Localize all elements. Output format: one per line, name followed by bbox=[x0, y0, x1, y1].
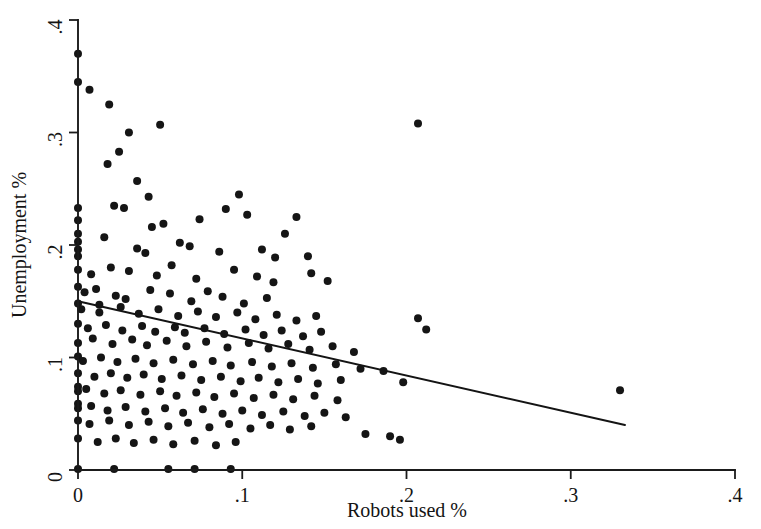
data-point bbox=[150, 359, 158, 367]
data-point bbox=[268, 363, 276, 371]
data-point bbox=[138, 322, 146, 330]
data-point bbox=[81, 288, 89, 296]
data-point bbox=[115, 148, 123, 156]
data-point bbox=[86, 420, 94, 428]
data-point bbox=[299, 332, 307, 340]
data-point bbox=[123, 374, 131, 382]
x-axis-title: Robots used % bbox=[347, 499, 467, 521]
data-point bbox=[86, 86, 94, 94]
data-point bbox=[117, 386, 125, 394]
data-point bbox=[112, 292, 120, 300]
data-point bbox=[227, 465, 235, 473]
data-point bbox=[141, 249, 149, 257]
data-point bbox=[237, 377, 245, 385]
data-point bbox=[227, 361, 235, 369]
data-point bbox=[173, 392, 181, 400]
data-point bbox=[84, 324, 92, 332]
data-point bbox=[266, 421, 274, 429]
data-point bbox=[168, 261, 176, 269]
data-point bbox=[233, 309, 241, 317]
tick-labels-layer: 0.1.2.3.40.1.2.3.4 bbox=[44, 20, 743, 507]
data-point bbox=[145, 193, 153, 201]
data-point bbox=[414, 120, 422, 128]
data-point bbox=[182, 342, 190, 350]
data-point bbox=[288, 359, 296, 367]
data-point bbox=[210, 393, 218, 401]
y-tick-label: .1 bbox=[44, 357, 66, 372]
data-point bbox=[102, 321, 110, 329]
data-point bbox=[133, 177, 141, 185]
data-point bbox=[199, 405, 207, 413]
data-point bbox=[191, 465, 199, 473]
data-point bbox=[258, 246, 266, 254]
data-point bbox=[82, 385, 90, 393]
data-point bbox=[230, 390, 238, 398]
data-point bbox=[238, 406, 246, 414]
data-point bbox=[125, 421, 133, 429]
data-point bbox=[118, 327, 126, 335]
chart-canvas: 0.1.2.3.40.1.2.3.4 Robots used % Unemplo… bbox=[0, 0, 761, 529]
data-point bbox=[156, 121, 164, 129]
data-point bbox=[616, 386, 624, 394]
data-point bbox=[161, 404, 169, 412]
data-point bbox=[145, 418, 153, 426]
data-point bbox=[100, 390, 108, 398]
data-point bbox=[130, 439, 138, 447]
data-point bbox=[163, 337, 171, 345]
data-point bbox=[164, 465, 172, 473]
data-point bbox=[146, 286, 154, 294]
data-point bbox=[361, 430, 369, 438]
x-tick-label: .1 bbox=[235, 484, 250, 506]
data-point bbox=[219, 410, 227, 418]
data-point bbox=[112, 435, 120, 443]
data-point bbox=[136, 391, 144, 399]
data-point bbox=[104, 160, 112, 168]
data-point bbox=[242, 325, 250, 333]
data-point bbox=[205, 423, 213, 431]
data-point bbox=[169, 356, 177, 364]
data-point bbox=[174, 312, 182, 320]
data-point bbox=[95, 309, 103, 317]
data-point bbox=[230, 266, 238, 274]
data-point bbox=[125, 267, 133, 275]
data-point bbox=[197, 376, 205, 384]
tick-marks-layer bbox=[69, 20, 735, 479]
data-point bbox=[289, 395, 297, 403]
data-point bbox=[235, 190, 243, 198]
data-point bbox=[232, 438, 240, 446]
x-tick-label: 0 bbox=[73, 484, 83, 506]
data-point bbox=[97, 354, 105, 362]
data-point bbox=[90, 373, 98, 381]
data-point bbox=[246, 424, 254, 432]
data-point bbox=[184, 419, 192, 427]
data-point bbox=[153, 271, 161, 279]
data-point bbox=[154, 305, 162, 313]
data-point bbox=[156, 387, 164, 395]
data-point bbox=[396, 436, 404, 444]
data-point bbox=[141, 408, 149, 416]
data-point bbox=[311, 392, 319, 400]
data-point bbox=[222, 205, 230, 213]
data-point bbox=[342, 413, 350, 421]
data-point bbox=[192, 388, 200, 396]
data-point bbox=[269, 391, 277, 399]
data-point bbox=[260, 331, 268, 339]
data-point bbox=[191, 437, 199, 445]
data-point bbox=[179, 409, 187, 417]
data-point bbox=[110, 465, 118, 473]
data-point bbox=[192, 275, 200, 283]
data-point bbox=[332, 360, 340, 368]
data-point bbox=[131, 355, 139, 363]
data-point bbox=[281, 230, 289, 238]
data-point bbox=[279, 408, 287, 416]
data-point bbox=[79, 357, 87, 365]
data-point bbox=[164, 422, 172, 430]
data-point bbox=[186, 242, 194, 250]
y-tick-label: .2 bbox=[44, 245, 66, 260]
data-point bbox=[151, 328, 159, 336]
data-point bbox=[307, 422, 315, 430]
data-point bbox=[150, 436, 158, 444]
data-point bbox=[89, 334, 97, 342]
data-point bbox=[92, 285, 100, 293]
data-point bbox=[223, 343, 231, 351]
